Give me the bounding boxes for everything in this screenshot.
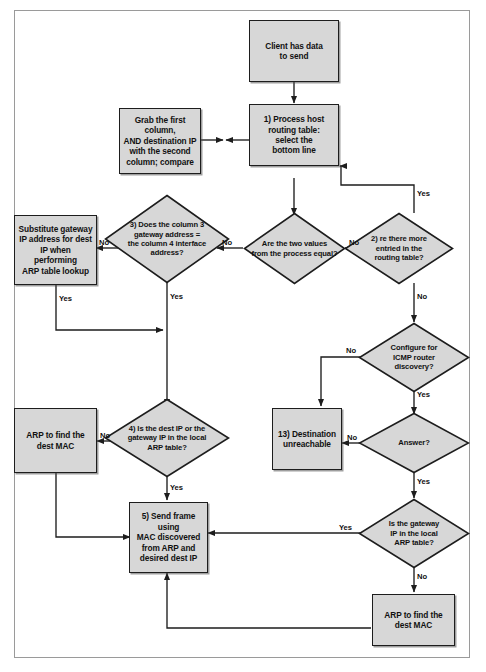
edge-label-step4-yes: Yes (170, 483, 183, 492)
node-substitute-gateway-ip: Substitute gatewayIP address for destIP … (14, 215, 97, 285)
node-label: 1) Process hostrouting table:select theb… (261, 114, 327, 156)
node-label: 4) Is the dest IP or thegateway IP in th… (124, 424, 211, 452)
flowchart-canvas: Client has datato send Grab the first co… (0, 0, 486, 672)
edge-label-icmp-yes: Yes (417, 390, 430, 399)
node-client-has-data: Client has datato send (249, 20, 339, 82)
edge-label-gwlocal-yes: Yes (339, 523, 352, 532)
node-label: ARP to find thedest MAC (381, 610, 445, 631)
node-label: 13) Destinationunreachable (275, 429, 339, 450)
node-process-host-routing-table: 1) Process hostrouting table:select theb… (249, 104, 339, 166)
node-grab-first-column: Grab the first column,AND destination IP… (119, 108, 201, 174)
node-decision-column3-equals-column4: 3) Does the column 3gateway address =the… (104, 194, 230, 284)
node-label: Configure forICMP routerdiscovery? (387, 343, 442, 371)
edge-label-step4-no: No (100, 431, 110, 440)
node-label: Grab the first column,AND destination IP… (120, 115, 200, 167)
node-label: ARP to find thedest MAC (23, 430, 87, 451)
node-decision-icmp-router-discovery: Configure forICMP routerdiscovery? (358, 322, 470, 393)
node-arp-find-dest-mac-right: ARP to find thedest MAC (372, 594, 455, 646)
node-label: Substitute gatewayIP address for destIP … (15, 224, 96, 276)
node-decision-more-routing-entries: 2) re there moreentried in therouting ta… (344, 212, 454, 285)
node-label: Client has datato send (262, 41, 326, 62)
node-label: 2) re there moreentried in therouting ta… (367, 234, 431, 262)
edge-label-step3-no: No (99, 238, 109, 247)
edge-label-step2-yes: Yes (417, 189, 430, 198)
node-decision-answer: Answer? (358, 412, 470, 474)
edge-label-answer-yes: Yes (417, 477, 430, 486)
node-destination-unreachable: 13) Destinationunreachable (272, 408, 342, 470)
node-label: Answer? (394, 438, 433, 447)
node-label: 5) Send frame usingMAC discoveredfrom AR… (130, 511, 207, 563)
edge-label-gwlocal-no: No (417, 572, 427, 581)
node-label: Is the gatewayIP in the localARP table? (385, 519, 444, 547)
edge-label-equal-no: No (222, 238, 232, 247)
node-decision-values-equal: Are the two valuesfrom the process equal… (243, 212, 346, 285)
node-decision-dest-or-gateway-in-arp: 4) Is the dest IP or thegateway IP in th… (104, 398, 230, 478)
edge-label-icmp-no: No (346, 346, 356, 355)
edge-label-answer-no: No (347, 433, 357, 442)
node-label: 3) Does the column 3gateway address =the… (124, 220, 210, 258)
node-decision-gateway-in-arp: Is the gatewayIP in the localARP table? (358, 498, 470, 569)
node-arp-find-dest-mac-left: ARP to find thedest MAC (14, 408, 97, 473)
node-send-frame: 5) Send frame usingMAC discoveredfrom AR… (129, 502, 208, 573)
edge-label-step2-no: No (349, 238, 359, 247)
node-label: Are the two valuesfrom the process equal… (248, 239, 342, 258)
edge-label-substitute-yes: Yes (59, 294, 72, 303)
edge-label-step2-no-down: No (417, 292, 427, 301)
edge-label-step3-yes: Yes (170, 292, 183, 301)
